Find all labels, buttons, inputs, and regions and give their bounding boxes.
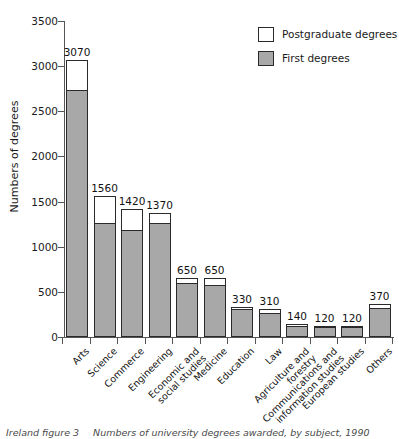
figure-caption-label: Ireland figure 3 <box>6 427 79 438</box>
y-axis-tick: 2000 <box>0 151 58 161</box>
x-axis-tick-mark <box>392 338 393 344</box>
bar-value-label: 370 <box>358 291 399 302</box>
y-axis-tick: 500 <box>0 287 58 297</box>
legend-swatch-postgraduate <box>258 27 274 42</box>
bar <box>231 307 253 337</box>
y-axis-tick-mark <box>58 202 65 203</box>
y-axis-tick-label: 500 <box>22 287 58 297</box>
bar-segment-first <box>369 309 391 337</box>
bar-segment-first <box>94 224 116 337</box>
y-axis-tick: 2500 <box>0 106 58 116</box>
bar-segment-first <box>341 328 363 337</box>
figure-caption-text: Numbers of university degrees awarded, b… <box>93 427 369 438</box>
y-axis-tick-label: 0 <box>22 332 58 342</box>
y-axis-line <box>64 21 65 338</box>
y-axis-tick: 3000 <box>0 61 58 71</box>
legend-label-first: First degrees <box>282 52 350 65</box>
bar-segment-postgraduate <box>149 213 171 224</box>
bar-segment-postgraduate <box>121 209 143 231</box>
figure-caption: Ireland figure 3Numbers of university de… <box>6 427 369 438</box>
bar-value-label: 310 <box>248 296 292 307</box>
y-axis-tick: 3500 <box>0 16 58 26</box>
bar <box>369 304 391 337</box>
y-axis-tick-label: 3000 <box>22 61 58 71</box>
bar <box>66 60 88 337</box>
bar <box>94 196 116 337</box>
bar <box>176 278 198 337</box>
legend-swatch-first <box>258 51 274 66</box>
bar-segment-first <box>66 91 88 337</box>
bar-segment-first <box>149 224 171 337</box>
x-axis-tick-mark <box>255 338 256 344</box>
bar-segment-postgraduate <box>204 278 226 285</box>
y-axis-tick: 1500 <box>0 197 58 207</box>
bar <box>121 209 143 337</box>
x-axis-tick-mark <box>227 338 228 344</box>
bar-value-label: 1560 <box>83 183 127 194</box>
y-axis-tick-label: 1000 <box>22 242 58 252</box>
x-axis-tick-mark <box>282 338 283 344</box>
bar-value-label: 1370 <box>138 200 182 211</box>
chart-figure: Numbers of degrees 050010001500200025003… <box>0 0 399 439</box>
y-axis-tick-label: 3500 <box>22 16 58 26</box>
x-axis-tick-mark <box>337 338 338 344</box>
bar-segment-first <box>231 310 253 337</box>
x-axis-tick-mark <box>117 338 118 344</box>
y-axis-tick-mark <box>58 66 65 67</box>
y-axis-tick: 1000 <box>0 242 58 252</box>
bar-value-label: 120 <box>330 313 374 324</box>
x-axis-tick-mark <box>310 338 311 344</box>
x-axis-line <box>64 337 394 338</box>
x-axis-tick-mark <box>90 338 91 344</box>
y-axis-tick-mark <box>58 292 65 293</box>
y-axis-tick-mark <box>58 111 65 112</box>
x-axis-tick-mark <box>365 338 366 344</box>
bar-segment-first <box>176 284 198 337</box>
bar-segment-postgraduate <box>66 60 88 91</box>
x-axis-tick-mark <box>200 338 201 344</box>
bar <box>314 326 336 337</box>
y-axis-tick-label: 2500 <box>22 106 58 116</box>
bar <box>341 326 363 337</box>
y-axis-tick-label: 2000 <box>22 151 58 161</box>
y-axis-tick-mark <box>58 156 65 157</box>
x-axis-tick-mark <box>62 338 63 344</box>
y-axis-tick: 0 <box>0 332 58 342</box>
bar-segment-first <box>121 231 143 337</box>
bar-value-label: 650 <box>193 265 237 276</box>
bar-value-label: 3070 <box>55 47 99 58</box>
x-axis-tick-mark <box>145 338 146 344</box>
y-axis-tick-mark <box>58 21 65 22</box>
y-axis-tick-mark <box>58 247 65 248</box>
y-axis-tick-label: 1500 <box>22 197 58 207</box>
bar-segment-first <box>286 327 308 337</box>
x-axis-tick-mark <box>172 338 173 344</box>
legend-label-postgraduate: Postgraduate degrees <box>282 28 397 41</box>
bar <box>204 278 226 337</box>
bar <box>286 324 308 337</box>
bar-segment-first <box>314 328 336 337</box>
